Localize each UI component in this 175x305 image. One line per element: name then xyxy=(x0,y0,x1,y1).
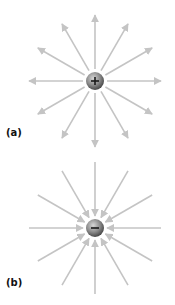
electric-field-diagram xyxy=(0,0,175,305)
panel-label-b: (b) xyxy=(6,277,22,288)
panel-label-a: (a) xyxy=(6,127,22,138)
negative-charge-field xyxy=(29,162,161,294)
positive-charge-field xyxy=(29,15,161,147)
